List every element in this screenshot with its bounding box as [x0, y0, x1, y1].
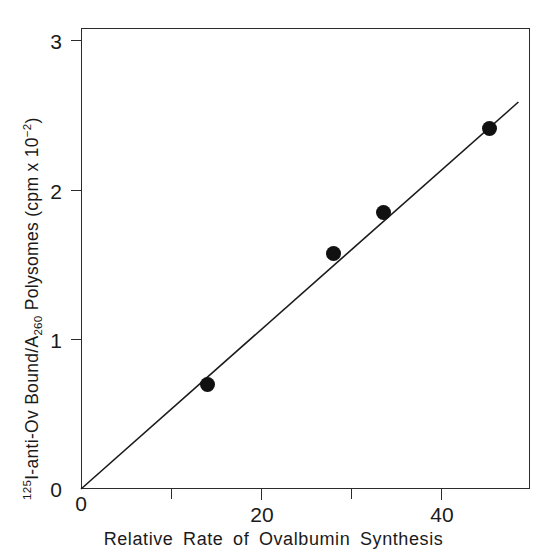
- x-axis-minor-tick: [351, 489, 352, 499]
- figure-panel: 125I-anti-Ov Bound/A260 Polysomes (cpm x…: [0, 0, 547, 560]
- y-axis-tick-label: 1: [50, 330, 62, 351]
- y-axis-tick-label: 2: [50, 180, 62, 201]
- y-axis-title: 125I-anti-Ov Bound/A260 Polysomes (cpm x…: [10, 0, 44, 500]
- x-axis-minor-tick: [171, 489, 172, 499]
- y-axis-title-isotope-mass: 125: [21, 480, 33, 500]
- y-axis-tick: 2: [71, 190, 82, 191]
- y-axis-title-exponent: −2: [21, 124, 33, 138]
- y-axis-title-mid: -anti-Ov Bound/A: [22, 336, 42, 475]
- x-axis-tick: 20: [261, 489, 262, 500]
- x-axis-tick-label: 40: [430, 504, 453, 525]
- y-axis-tick-label: 0: [50, 479, 62, 500]
- y-axis-tick: 1: [71, 339, 82, 340]
- x-axis-tick-label: 0: [75, 493, 87, 514]
- x-axis-tick-label: 20: [250, 504, 273, 525]
- x-axis-title: Relative Rate of Ovalbumin Synthesis: [0, 529, 547, 551]
- y-axis-title-tail: Polysomes (cpm x 10: [22, 137, 42, 315]
- y-axis-tick: 3: [71, 40, 82, 41]
- x-axis-tick: 40: [441, 489, 442, 500]
- y-axis-title-isotope-symbol: I: [22, 475, 42, 480]
- y-axis-title-a-subscript: 260: [32, 315, 44, 335]
- y-axis-tick-label: 3: [50, 30, 62, 51]
- plot-area: [81, 28, 530, 489]
- y-axis-title-close: ): [22, 117, 42, 123]
